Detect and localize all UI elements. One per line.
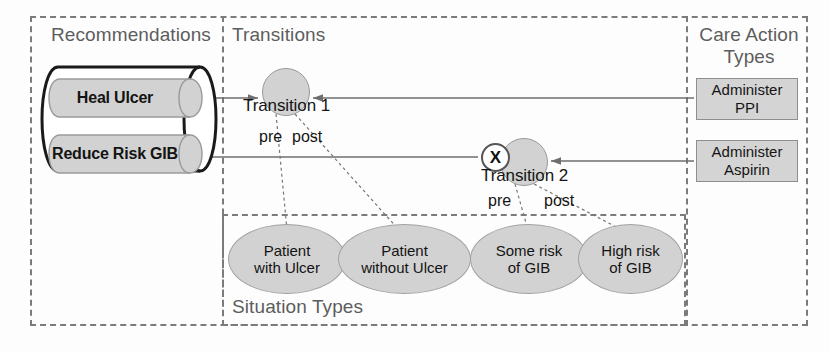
care-action-administer-aspirin[interactable]: Administer Aspirin [696,140,798,182]
recommendation-label: Heal Ulcer [48,78,182,118]
diagram-canvas: Recommendations Transitions Care Action … [0,0,829,352]
transition-1-post-label: post [292,128,322,146]
transition-label-2: Transition 2 [481,166,568,186]
transition-2-post-label: post [544,192,574,210]
care-action-administer-ppi[interactable]: Administer PPI [696,78,798,120]
region-label-situation-types: Situation Types [232,296,363,318]
situation-type-patient-with-ulcer[interactable]: Patient with Ulcer [228,224,346,294]
recommendation-label: Reduce Risk GIB [48,134,182,174]
situation-type-high-risk-of-gib[interactable]: High risk of GIB [578,224,683,294]
situation-type-some-risk-of-gib[interactable]: Some risk of GIB [470,224,588,294]
recommendation-heal-ulcer[interactable]: Heal Ulcer [48,78,204,118]
transition-2-pre-label: pre [488,192,511,210]
recommendation-reduce-risk-gib[interactable]: Reduce Risk GIB [48,134,204,174]
region-label-recommendations: Recommendations [42,24,220,46]
divider-transitions-careaction [686,16,688,326]
region-label-care-action-types: Care Action Types [694,24,804,68]
transition-1-pre-label: pre [259,128,282,146]
transition-label-1: Transition 1 [243,96,330,116]
region-label-transitions: Transitions [232,24,325,46]
situation-type-patient-without-ulcer[interactable]: Patient without Ulcer [338,224,471,294]
